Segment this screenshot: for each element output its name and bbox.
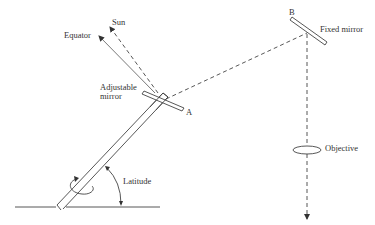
equator-label: Equator <box>64 31 91 40</box>
sun-label: Sun <box>112 18 125 27</box>
adjustable-mirror-label-line2: mirror <box>100 92 122 101</box>
latitude-label: Latitude <box>123 177 151 186</box>
beam-a-to-b <box>166 33 307 99</box>
objective-lens <box>293 146 321 154</box>
fixed-mirror-label: Fixed mirror <box>320 25 363 34</box>
point-a-label: A <box>186 108 192 117</box>
latitude-arc <box>105 166 123 206</box>
point-b-label: B <box>289 8 295 17</box>
objective-label: Objective <box>325 144 358 153</box>
polar-axis-rod <box>57 93 168 210</box>
